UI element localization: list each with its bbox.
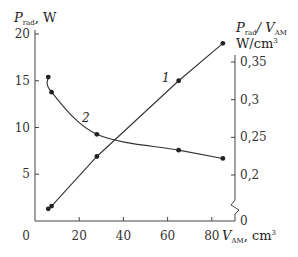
series-1-point [220, 41, 225, 46]
series-1-line [48, 43, 223, 208]
y-right-tick-label: 0,25 [240, 130, 267, 144]
chart-root: 020406080510152000,20,250,30,35 Prad, W … [0, 0, 298, 257]
x-tick-label: 40 [116, 229, 131, 243]
y-right-tick-label: 0,35 [240, 55, 267, 69]
series-1-point [94, 154, 99, 159]
series-2-line [47, 77, 223, 158]
series-2-point [94, 132, 99, 137]
x-axis-label: VAM, cm3 [222, 228, 276, 245]
x-tick-label: 20 [72, 229, 87, 243]
series-1-point [49, 204, 54, 209]
curve-2-label: 2 [81, 111, 90, 125]
series-2-point [176, 148, 181, 153]
x-tick-label: 60 [160, 229, 175, 243]
curve-1-label: 1 [162, 71, 170, 85]
series [46, 41, 225, 211]
x-tick-label: 0 [22, 229, 30, 243]
y-left-tick-label: 15 [15, 74, 30, 88]
x-tick-label: 80 [204, 229, 219, 243]
y-left-tick-label: 20 [15, 27, 30, 41]
y-left-tick-label: 10 [15, 121, 30, 135]
right-y-axis [231, 55, 239, 221]
series-2-point [49, 90, 54, 95]
y-right-axis-label: Prad/ VAM [235, 20, 287, 37]
series-2-point [46, 75, 51, 80]
ticks [35, 34, 235, 221]
tick-labels: 020406080510152000,20,250,30,35 [15, 27, 267, 243]
y-right-axis-unit: W/cm3 [236, 36, 278, 51]
y-left-tick-label: 5 [22, 167, 30, 181]
y-left-axis-label: Prad, W [13, 10, 57, 27]
y-right-tick-label: 0,3 [240, 93, 259, 107]
series-2-point [220, 156, 225, 161]
y-right-tick-label: 0,2 [240, 168, 259, 182]
axes [35, 30, 239, 221]
series-1-point [176, 78, 181, 83]
y-right-tick-label: 0 [240, 214, 248, 228]
